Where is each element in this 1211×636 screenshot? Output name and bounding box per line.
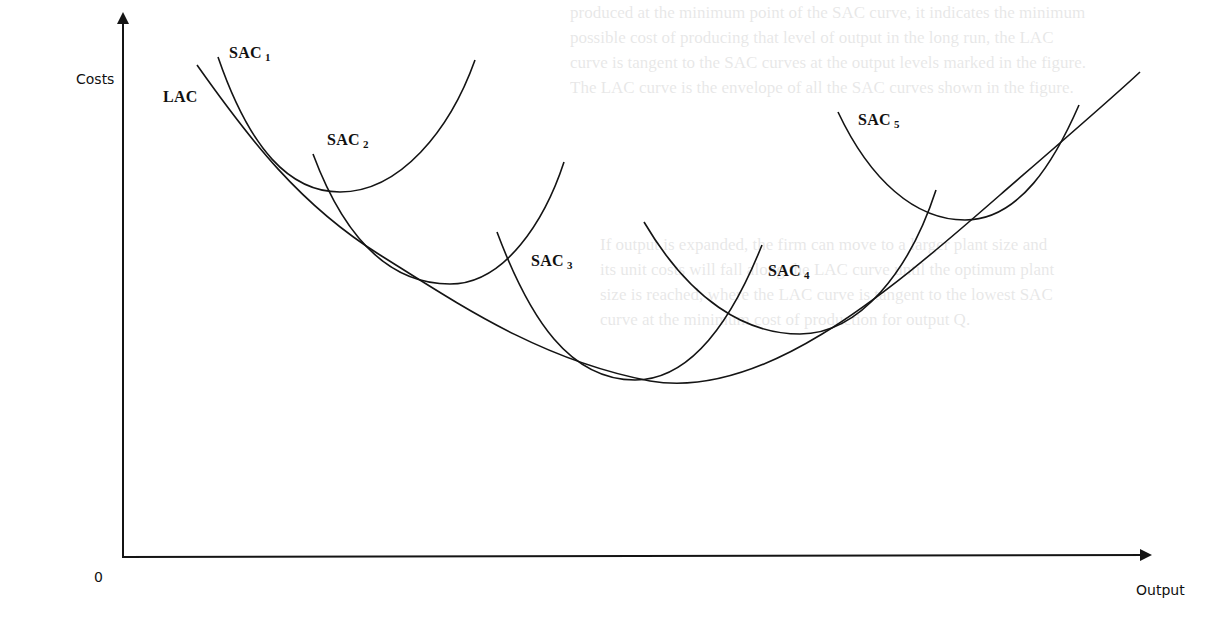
sac4-label: SAC4 <box>768 262 810 281</box>
lac-label-text: LAC <box>163 88 198 105</box>
x-axis-label: Output <box>1136 582 1185 598</box>
sac1-subscript: 1 <box>265 51 271 63</box>
sac3-label: SAC3 <box>531 252 573 271</box>
origin-label: 0 <box>94 569 103 585</box>
sac4-subscript: 4 <box>804 269 810 281</box>
lac-label: LAC <box>163 88 198 106</box>
x-axis <box>122 555 1150 557</box>
sac3-label-text: SAC <box>531 252 564 269</box>
sac2-subscript: 2 <box>363 138 369 150</box>
sac1-label: SAC1 <box>229 44 271 63</box>
sac4-label-text: SAC <box>768 262 801 279</box>
sac1-curve <box>218 57 475 192</box>
sac2-label-text: SAC <box>327 131 360 148</box>
sac1-label-text: SAC <box>229 44 262 61</box>
sac5-label-text: SAC <box>858 111 891 128</box>
sac5-subscript: 5 <box>894 118 900 130</box>
sac5-label: SAC5 <box>858 111 900 130</box>
y-axis-label: Costs <box>76 71 114 87</box>
sac2-label: SAC2 <box>327 131 369 150</box>
sac2-curve <box>313 154 564 284</box>
lac-curve <box>197 65 1140 383</box>
sac3-subscript: 3 <box>567 259 573 271</box>
